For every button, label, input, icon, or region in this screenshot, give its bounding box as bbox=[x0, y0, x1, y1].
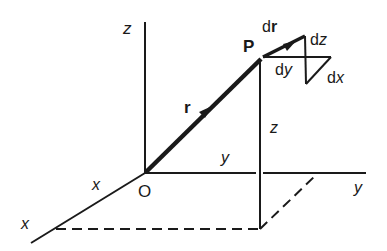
y-coordinate-label: y bbox=[221, 150, 229, 166]
origin-label: O bbox=[138, 183, 151, 200]
point-p-label: P bbox=[243, 38, 254, 55]
dashed-y-projection bbox=[260, 175, 316, 229]
x-coordinate-label: x bbox=[92, 177, 100, 193]
dz-component bbox=[305, 36, 306, 84]
dr-label: dr bbox=[262, 19, 277, 35]
z-coordinate-label: z bbox=[270, 120, 278, 136]
diagram-canvas bbox=[0, 0, 387, 251]
y-axis-label: y bbox=[354, 180, 362, 196]
dr-vector-symbol: r bbox=[271, 18, 277, 35]
z-axis-label: z bbox=[123, 20, 132, 37]
position-vector-label: r bbox=[184, 99, 191, 116]
dy-label: dy bbox=[275, 62, 292, 78]
dx-label: dx bbox=[327, 70, 344, 86]
dz-label: dz bbox=[310, 32, 327, 48]
dr-prefix: d bbox=[262, 18, 271, 35]
x-axis-label: x bbox=[21, 216, 29, 232]
dr-arrowhead-icon bbox=[283, 41, 296, 51]
x-axis bbox=[31, 173, 145, 243]
displacement-vector-dr bbox=[263, 36, 305, 57]
